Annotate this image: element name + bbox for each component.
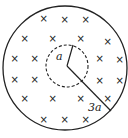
field-into-page-icon: × <box>116 75 124 86</box>
field-into-page-icon: × <box>21 93 29 104</box>
outer-radius-label: 3a <box>88 101 102 114</box>
field-into-page-icon: × <box>21 33 29 44</box>
field-into-page-icon: × <box>82 14 90 25</box>
field-into-page-icon: × <box>61 114 69 125</box>
field-into-page-icon: × <box>77 93 85 104</box>
field-marks: ×××××××××××××××××××××× <box>11 13 124 125</box>
inner-radius-line <box>67 45 73 66</box>
field-into-page-icon: × <box>31 74 39 85</box>
field-into-page-icon: × <box>11 53 19 64</box>
magnetic-field-diagram: a 3a ×××××××××××××××××××××× <box>0 0 128 138</box>
field-into-page-icon: × <box>11 74 19 85</box>
field-into-page-icon: × <box>49 33 57 44</box>
field-into-page-icon: × <box>96 53 104 64</box>
field-into-page-icon: × <box>116 54 124 65</box>
field-into-page-icon: × <box>104 36 112 47</box>
field-into-page-icon: × <box>31 53 39 64</box>
field-into-page-icon: × <box>40 114 48 125</box>
field-into-page-icon: × <box>40 13 48 24</box>
field-into-page-icon: × <box>77 33 85 44</box>
field-into-page-icon: × <box>49 93 57 104</box>
inner-radius-label: a <box>56 50 63 63</box>
field-into-page-icon: × <box>82 114 90 125</box>
field-into-page-icon: × <box>104 93 112 104</box>
field-into-page-icon: × <box>61 14 69 25</box>
field-into-page-icon: × <box>96 75 104 86</box>
